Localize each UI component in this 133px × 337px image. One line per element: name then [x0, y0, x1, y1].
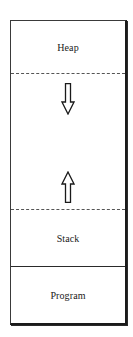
heap-label: Heap: [57, 42, 79, 53]
memory-layout-diagram: Heap Stack Program: [10, 20, 127, 325]
stack-label: Stack: [57, 233, 80, 244]
up-arrow-icon: [61, 171, 75, 203]
heap-region: Heap: [11, 21, 125, 73]
program-label: Program: [50, 290, 85, 301]
program-region: Program: [11, 267, 125, 323]
down-arrow-icon: [61, 83, 75, 115]
stack-region: Stack: [11, 210, 125, 266]
